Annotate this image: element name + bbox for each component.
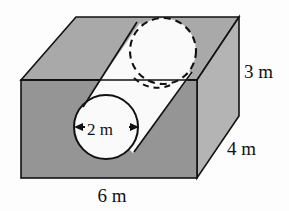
height-label: 3 m [244,61,273,82]
prism-diagram: 2 m 3 m 4 m 6 m [0,0,289,211]
depth-label: 4 m [227,138,256,159]
diameter-label: 2 m [87,120,113,139]
width-label: 6 m [97,185,126,206]
geometry-figure: 2 m 3 m 4 m 6 m [0,0,289,211]
